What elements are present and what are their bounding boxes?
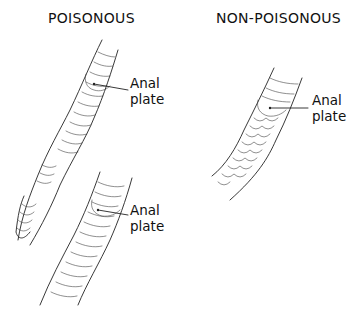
anal-plate-label-poisonous-top: Anal plate (130, 75, 164, 107)
non-poisonous-drawing (212, 68, 302, 200)
poisonous-pitviper-drawing (40, 172, 132, 305)
poisonous-rattlesnake-drawing (16, 40, 118, 245)
snake-illustrations (0, 0, 358, 310)
leader-line-2 (98, 210, 128, 215)
anal-plate-label-poisonous-bottom: Anal plate (130, 202, 164, 234)
anal-plate-label-non-poisonous: Anal plate (312, 92, 346, 124)
leader-line-1 (94, 84, 128, 90)
